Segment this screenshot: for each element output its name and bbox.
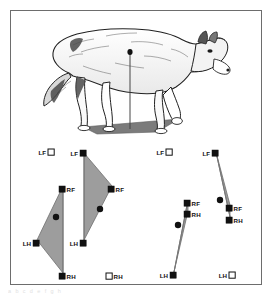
foot-marker-lf-filled[interactable] <box>80 150 86 156</box>
support-polygon <box>84 153 112 240</box>
foot-label-rf: RF <box>116 186 125 193</box>
foot-label-rh: RH <box>67 273 77 280</box>
caption-ghost-text: a b c d e f g h <box>8 288 266 297</box>
foot-label-lf: LF <box>202 150 210 157</box>
foot-marker-rf-filled[interactable] <box>108 186 114 192</box>
foot-label-lh: LH <box>70 240 79 247</box>
foot-marker-rf-filled[interactable] <box>184 200 190 206</box>
foot-marker-lh-filled[interactable] <box>170 272 176 278</box>
foot-marker-lf-filled[interactable] <box>212 150 218 156</box>
foot-marker-rh-filled[interactable] <box>226 217 232 223</box>
foot-marker-lh-filled[interactable] <box>80 240 86 246</box>
wolf-illustration-panel <box>11 11 261 139</box>
paw-left-hind <box>78 125 90 130</box>
wolf-eye <box>207 49 212 52</box>
foot-label-lf: LF <box>156 149 164 156</box>
support-pattern-tripod-right-hind-lifted: LFRFLHRH <box>70 150 124 280</box>
foot-marker-rh-filled[interactable] <box>184 211 190 217</box>
support-pattern-diagonal-narrow-left-fore-lifted: LFRFRHLH <box>156 149 201 279</box>
support-pattern-diagonal-narrow-left-hind-lifted: LFRFRHLH <box>202 150 243 279</box>
wolf-leg-right-fore-lifted <box>163 87 181 122</box>
center-of-gravity-marker <box>97 206 103 212</box>
foot-label-rf: RF <box>67 186 76 193</box>
wolf-muzzle <box>213 59 230 74</box>
support-pattern-panels: LFRFLHRHLFRFLHRHLFRFRHLHLFRFRHLH <box>11 139 261 284</box>
wolf-ear-near <box>198 31 208 44</box>
foot-label-rf: RF <box>192 200 201 207</box>
paw-right-hind <box>103 126 115 131</box>
foot-label-lf: LF <box>38 149 46 156</box>
foot-label-rh: RH <box>114 273 124 280</box>
wolf-nose <box>226 68 229 71</box>
foot-label-lf: LF <box>70 150 78 157</box>
foot-marker-rh-open[interactable] <box>106 273 112 279</box>
center-of-gravity-marker <box>217 197 223 203</box>
support-polygon <box>37 186 63 273</box>
foot-label-rh: RH <box>192 211 202 218</box>
paw-right-fore-lifted <box>172 118 183 125</box>
foot-label-lh: LH <box>160 272 169 279</box>
paw-left-fore <box>155 128 167 133</box>
foot-marker-lh-filled[interactable] <box>33 240 39 246</box>
foot-label-lh: LH <box>219 272 228 279</box>
wolf-walking-illustration <box>11 11 261 139</box>
foot-label-rh: RH <box>234 217 244 224</box>
support-pattern-diagram: LFRFLHRHLFRFLHRHLFRFRHLHLFRFRHLH <box>11 139 261 284</box>
foot-marker-rf-filled[interactable] <box>59 186 65 192</box>
foot-marker-rf-filled[interactable] <box>226 205 232 211</box>
center-of-gravity-dot <box>127 49 132 55</box>
center-of-gravity-marker <box>175 222 181 228</box>
center-of-gravity-marker <box>53 214 59 220</box>
figure-root: LFRFLHRHLFRFLHRHLFRFRHLHLFRFRHLH a b c d… <box>0 0 272 298</box>
foot-label-rf: RF <box>234 205 243 212</box>
foot-marker-lf-open[interactable] <box>166 149 172 155</box>
foot-marker-rh-filled[interactable] <box>59 273 65 279</box>
support-pattern-tripod-left-fore-lifted: LFRFLHRH <box>23 149 76 280</box>
foot-marker-lh-open[interactable] <box>229 272 235 278</box>
foot-marker-lf-open[interactable] <box>48 149 54 155</box>
foot-label-lh: LH <box>23 240 32 247</box>
